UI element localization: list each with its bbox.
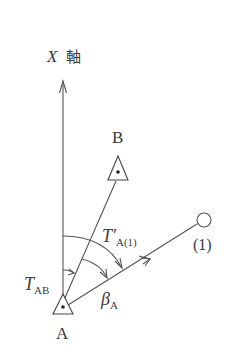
- t-a1-label: T′A(1): [102, 226, 137, 249]
- station-a-label: A: [56, 324, 69, 343]
- point-1-marker: [197, 213, 211, 227]
- beta-arrow-icon: [100, 269, 107, 278]
- station-b-label: B: [112, 128, 123, 147]
- beta-label: βA: [100, 289, 118, 311]
- point-1-label: (1): [193, 236, 212, 254]
- x-axis-label: X 軸: [46, 47, 81, 66]
- t-ab-label: TAB: [24, 274, 49, 296]
- survey-angle-diagram: X 軸 B A (1) TAB T′A(1) βA: [0, 0, 238, 361]
- t-ab-arrow-icon: [68, 269, 74, 275]
- station-b-marker: [108, 156, 128, 180]
- x-axis: [60, 81, 67, 300]
